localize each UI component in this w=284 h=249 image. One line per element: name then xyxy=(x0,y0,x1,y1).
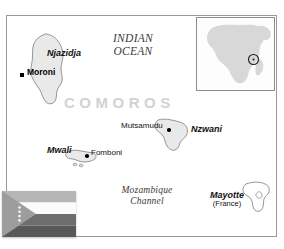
madagascar-shape xyxy=(255,59,263,75)
island-label-nzwani: Nzwani xyxy=(191,124,222,134)
locator-center-dot xyxy=(253,59,255,61)
city-label-moroni: Moroni xyxy=(27,68,55,78)
flag-star-4 xyxy=(18,219,21,222)
island-label-njazidja: Njazidja xyxy=(47,48,81,58)
inset-africa-svg xyxy=(197,18,275,91)
territory-sovereign-mayotte: (France) xyxy=(203,200,251,208)
ocean-label: INDIAN OCEAN xyxy=(97,32,169,58)
dot-marker-mutsamudu xyxy=(167,128,171,132)
island-label-mwali: Mwali xyxy=(47,145,72,155)
territory-label-mayotte: Mayotte (France) xyxy=(203,190,251,208)
flag-svg xyxy=(2,191,76,237)
flag-star-3 xyxy=(18,215,21,218)
channel-label-line2: Channel xyxy=(112,196,182,207)
ocean-label-line2: OCEAN xyxy=(97,45,169,58)
flag-star-1 xyxy=(18,206,21,209)
dot-marker-fomboni xyxy=(85,154,89,158)
channel-label: Mozambique Channel xyxy=(112,185,182,206)
island-islet-mwali-a xyxy=(73,163,77,166)
city-label-mutsamudu: Mutsamudu xyxy=(121,122,163,131)
square-marker-moroni xyxy=(20,73,24,77)
ocean-label-line1: INDIAN xyxy=(97,32,169,45)
page-title: COMOROS xyxy=(64,95,175,112)
comoros-flag xyxy=(2,191,76,237)
island-islet-mwali-b xyxy=(79,164,83,167)
comoros-map: INDIAN OCEAN COMOROS Njazidja Mwali Nzwa… xyxy=(0,0,284,249)
city-label-fomboni: Fomboni xyxy=(91,149,122,158)
flag-star-2 xyxy=(18,210,21,213)
channel-label-line1: Mozambique xyxy=(112,185,182,196)
island-shape-mayotte-islet xyxy=(256,192,262,198)
africa-locator-inset xyxy=(196,17,275,91)
